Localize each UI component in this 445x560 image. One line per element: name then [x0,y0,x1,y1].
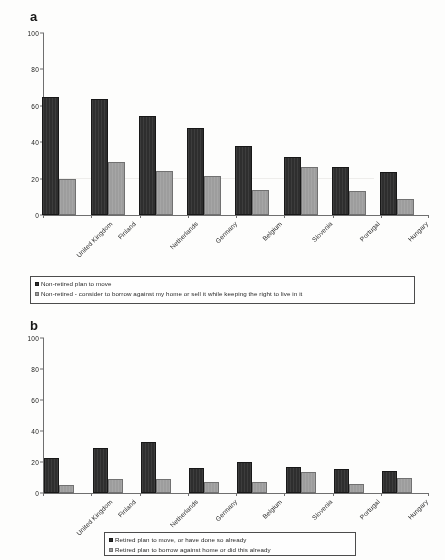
x-axis-label: Germany [214,498,238,522]
y-tick-label: 60 [31,397,43,404]
x-tick-mark [428,493,429,496]
bar-light [156,171,173,215]
legend-a-item-0: Non-retired plan to move [35,280,410,288]
chart-panel-a: a 020406080100United KingdomFinlandNethe… [0,0,445,310]
bar-light [59,485,74,493]
light-square-swatch-icon [109,548,113,552]
legend-b-item-1: Retired plan to borrow against home or d… [109,546,351,554]
bar-dark [141,442,156,493]
x-tick-mark [91,493,92,496]
bar-dark [334,469,349,493]
x-axis-label: United Kingdom [75,498,114,537]
x-axis-label: Portugal [358,498,381,521]
x-tick-mark [333,493,334,496]
bar-light [349,484,364,493]
x-tick-mark [381,493,382,496]
y-tick-label: 80 [31,366,43,373]
legend-b-label-0: Retired plan to move, or have done so al… [115,536,246,544]
y-tick-label: 40 [31,139,43,146]
bar-light [397,478,412,493]
dark-square-swatch-icon [109,538,113,542]
bar-dark [286,467,301,493]
x-tick-mark [236,215,237,218]
x-axis-label: Slovenia [310,220,333,243]
legend-a-item-1: Non-retired - consider to borrow against… [35,290,410,298]
x-axis-label: Germany [214,220,238,244]
bar-dark [235,146,252,215]
bar-dark [189,468,204,493]
bar-light [301,167,318,215]
y-tick-label: 0 [35,490,43,497]
x-tick-mark [43,215,44,218]
legend-a-label-0: Non-retired plan to move [41,280,112,288]
x-axis-label: Slovenia [310,498,333,521]
bar-dark [284,157,301,215]
y-tick-label: 40 [31,428,43,435]
bar-dark [382,471,397,493]
bar-dark [93,448,108,493]
x-axis-label: United Kingdom [75,220,114,259]
bar-dark [139,116,156,215]
x-axis-label: Finland [116,498,137,519]
y-tick-label: 20 [31,459,43,466]
x-tick-mark [428,215,429,218]
x-tick-mark [381,215,382,218]
legend-b-item-0: Retired plan to move, or have done so al… [109,536,351,544]
panel-b-letter: b [30,318,38,333]
chart-panel-b: b 020406080100United KingdomFinlandNethe… [0,310,445,560]
bar-light [349,191,366,215]
y-tick-label: 60 [31,102,43,109]
x-axis-label: Finland [116,220,137,241]
bar-light [108,479,123,493]
bar-light [204,176,221,215]
legend-a-label-1: Non-retired - consider to borrow against… [41,290,302,298]
bar-dark [332,167,349,215]
light-square-swatch-icon [35,292,39,296]
bar-light [204,482,219,493]
x-tick-mark [140,215,141,218]
bar-dark [187,128,204,215]
plot-area-a: 020406080100United KingdomFinlandNetherl… [43,33,429,215]
legend-b-label-1: Retired plan to borrow against home or d… [115,546,271,554]
x-axis-label: Netherlands [168,220,199,251]
x-tick-mark [188,215,189,218]
x-axis-label: Belgium [261,498,283,520]
bar-light [397,199,414,215]
plot-area-b: 020406080100United KingdomFinlandNetherl… [43,338,429,493]
bar-light [59,179,76,215]
y-tick-label: 100 [28,30,43,37]
y-tick-label: 100 [28,335,43,342]
bar-light [252,190,269,215]
x-tick-mark [140,493,141,496]
bar-dark [380,172,397,215]
x-tick-mark [91,215,92,218]
x-tick-mark [236,493,237,496]
x-tick-mark [188,493,189,496]
x-axis-label: Hungary [407,498,430,521]
x-tick-mark [284,215,285,218]
bar-light [156,479,171,493]
x-axis-label: Netherlands [168,498,199,529]
x-tick-mark [284,493,285,496]
x-axis-label: Belgium [261,220,283,242]
legend-a: Non-retired plan to move Non-retired - c… [30,276,415,304]
y-tick-label: 20 [31,175,43,182]
bar-light [301,472,316,493]
dark-square-swatch-icon [35,282,39,286]
panel-a-letter: a [30,9,37,24]
bar-dark [91,99,108,215]
x-axis-label: Portugal [358,220,381,243]
x-tick-mark [43,493,44,496]
x-tick-mark [333,215,334,218]
bar-dark [237,462,252,493]
x-axis-label: Hungary [407,220,430,243]
bar-dark [42,97,59,215]
bar-light [252,482,267,493]
legend-b: Retired plan to move, or have done so al… [104,532,356,556]
bar-light [108,162,125,215]
y-tick-label: 80 [31,66,43,73]
bar-dark [44,458,59,493]
